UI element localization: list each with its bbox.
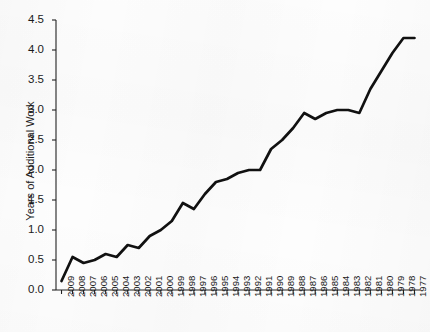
x-axis-tick-label: 1979 [396,276,406,297]
x-axis-tick-label: 2001 [154,276,164,297]
x-axis-tick-label: 1992 [253,276,263,297]
x-axis-tick-label: 1988 [297,276,307,297]
x-axis-tick-label: 1994 [231,276,241,297]
y-axis-title: Years of Additional Work [24,86,36,236]
x-axis-tick-label: 1991 [264,276,274,297]
x-axis-tick-label: 1999 [176,276,186,297]
x-axis-tick-label: 1984 [341,276,351,297]
data-series-line [62,38,415,281]
x-axis-tick-label: 1996 [209,276,219,297]
x-axis-tick-label: 1995 [220,276,230,297]
x-axis-tick-label: 1997 [198,276,208,297]
chart-container: 0.00.51.01.52.02.53.03.54.04.5 200920082… [0,0,430,332]
x-axis-tick-label: 2002 [143,276,153,297]
x-axis-tick-label: 1982 [363,276,373,297]
x-axis-tick-label: 1981 [374,276,384,297]
y-axis-tick-label: 4.5 [18,14,44,26]
y-axis-tick-label: 0.0 [18,284,44,296]
x-axis-tick-label: 2000 [165,276,175,297]
x-axis-tick-label: 1989 [286,276,296,297]
x-axis-tick-label: 2005 [110,276,120,297]
x-axis-tick-label: 1985 [330,276,340,297]
x-axis-tick-label: 2007 [88,276,98,297]
y-axis-tick-label: 0.5 [18,254,44,266]
x-axis-tick-label: 1990 [275,276,285,297]
x-axis-tick-label: 2009 [66,276,76,297]
x-axis-tick-label: 1998 [187,276,197,297]
y-axis-ticks [52,20,56,290]
x-axis-tick-label: 1983 [352,276,362,297]
x-axis-tick-label: 1986 [319,276,329,297]
x-axis-tick-label: 1977 [418,276,428,297]
x-axis-tick-label: 1980 [385,276,395,297]
y-axis-tick-label: 3.5 [18,74,44,86]
x-axis-tick-label: 1978 [407,276,417,297]
x-axis-tick-label: 2003 [132,276,142,297]
x-axis-tick-label: 1987 [308,276,318,297]
x-axis-tick-label: 2006 [99,276,109,297]
x-axis-tick-label: 1993 [242,276,252,297]
x-axis-tick-label: 2004 [121,276,131,297]
x-axis-tick-label: 2008 [77,276,87,297]
y-axis [52,20,56,290]
y-axis-tick-label: 4.0 [18,44,44,56]
